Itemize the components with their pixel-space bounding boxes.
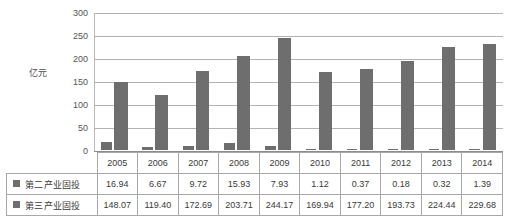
table-cell-2014-series-1: 1.39 [462,174,503,195]
bar-2013-series-1 [429,149,440,150]
table-row-years: 2005200620072008200920102011201220132014 [7,153,503,174]
table-cell-2007-series-1: 9.72 [178,174,219,195]
bar-2014-series-1 [469,149,480,150]
y-axis-tick-150: 150 [73,77,88,87]
table-cell-2006-series-2: 119.40 [138,195,179,216]
bar-2009-series-2 [278,38,291,150]
table-cell-2006-series-1: 6.67 [138,174,179,195]
table-cell-2013-series-1: 0.32 [421,174,462,195]
y-axis-tick-50: 50 [78,123,88,133]
y-axis-unit-label: 亿元 [29,66,47,79]
table-body: 2005200620072008200920102011201220132014… [7,153,503,216]
bar-2014-series-2 [483,44,496,150]
bar-2010-series-2 [319,72,332,150]
table-cell-2005-series-1: 16.94 [97,174,138,195]
table-header-2006: 2006 [138,153,179,174]
y-axis-tick-labels: 300250200150100500 [52,0,92,152]
table-cell-2010-series-1: 1.12 [300,174,341,195]
bar-2008-series-2 [237,56,250,150]
table-header-2009: 2009 [259,153,300,174]
plot-area [94,13,503,151]
bar-group-2005 [94,12,135,150]
bar-2006-series-1 [142,147,153,150]
bar-2011-series-2 [360,69,373,151]
bar-group-2008 [217,12,258,150]
bar-group-2014 [462,12,503,150]
chart-data-table: 2005200620072008200920102011201220132014… [6,152,503,216]
bar-2008-series-1 [224,143,235,150]
table-header-2008: 2008 [219,153,260,174]
table-header-2005: 2005 [97,153,138,174]
table-row-tertiary: 第三产业固投148.07119.40172.69203.71244.17169.… [7,195,503,216]
legend-swatch-icon-1 [13,180,20,187]
table-header-2012: 2012 [381,153,422,174]
y-axis-tick-200: 200 [73,54,88,64]
bar-2005-series-1 [101,142,112,150]
bar-group-2010 [299,12,340,150]
bar-2006-series-2 [155,95,168,150]
bar-group-2013 [421,12,462,150]
table-row-secondary: 第二产业固投16.946.679.7215.937.931.120.370.18… [7,174,503,195]
table-header-2013: 2013 [421,153,462,174]
bar-chart: 亿元 300250200150100500 [0,0,509,152]
table-cell-2011-series-1: 0.37 [340,174,381,195]
legend-swatch-icon-2 [13,201,20,208]
legend-label-text-1: 第二产业固投 [25,178,81,191]
bar-2012-series-2 [401,61,414,150]
table-header-2011: 2011 [340,153,381,174]
table-cell-2010-series-2: 169.94 [300,195,341,216]
table-cell-2005-series-2: 148.07 [97,195,138,216]
bar-2011-series-1 [347,149,358,150]
bar-2007-series-1 [183,146,194,150]
table-cell-2008-series-2: 203.71 [219,195,260,216]
legend-label-text-2: 第三产业固投 [25,199,81,212]
bar-2012-series-1 [388,149,399,150]
table-header-2014: 2014 [462,153,503,174]
bar-2010-series-1 [306,149,317,150]
y-axis-tick-250: 250 [73,31,88,41]
table-cell-2008-series-1: 15.93 [219,174,260,195]
bar-2013-series-2 [442,47,455,150]
table-cell-2009-series-2: 244.17 [259,195,300,216]
bar-2005-series-2 [114,82,127,150]
bar-group-2007 [176,12,217,150]
table-cell-2011-series-2: 177.20 [340,195,381,216]
table-cell-2009-series-1: 7.93 [259,174,300,195]
table-header-2010: 2010 [300,153,341,174]
table-cell-2012-series-2: 193.73 [381,195,422,216]
y-axis-tick-300: 300 [73,8,88,18]
table-cell-2014-series-2: 229.68 [462,195,503,216]
bar-2007-series-2 [196,71,209,150]
bar-group-2012 [380,12,421,150]
table-corner-empty [7,153,98,174]
bar-group-2011 [339,12,380,150]
table-cell-2012-series-1: 0.18 [381,174,422,195]
table-header-2007: 2007 [178,153,219,174]
bar-group-2006 [135,12,176,150]
y-axis-tick-100: 100 [73,100,88,110]
table-cell-2007-series-2: 172.69 [178,195,219,216]
table-cell-2013-series-2: 224.44 [421,195,462,216]
legend-row-label-1: 第二产业固投 [7,174,98,195]
bar-2009-series-1 [265,146,276,150]
legend-row-label-2: 第三产业固投 [7,195,98,216]
bar-group-2009 [258,12,299,150]
